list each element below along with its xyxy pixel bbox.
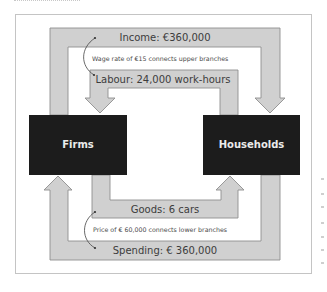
- spending-label: Spending: € 360,000: [113, 245, 217, 256]
- edge-fragment: [321, 206, 324, 208]
- income-label: Income: €360,000: [119, 32, 210, 43]
- edge-fragment: [321, 249, 324, 251]
- edge-fragment: [321, 178, 324, 180]
- upper-connector-dot-bottom: [93, 74, 95, 76]
- firms-label: Firms: [62, 139, 94, 150]
- lower-connector-dot-bottom: [94, 247, 96, 249]
- edge-fragment: [321, 193, 324, 195]
- labour-label: Labour: 24,000 work-hours: [95, 74, 230, 85]
- edge-fragment: [321, 236, 324, 238]
- price-note: Price of € 60,000 connects lower branche…: [93, 226, 227, 233]
- goods-label: Goods: 6 cars: [131, 204, 200, 215]
- upper-connector-dot-top: [94, 37, 96, 39]
- households-label: Households: [219, 139, 285, 150]
- edge-fragment: [321, 222, 324, 224]
- circular-flow-diagram: Firms Households Income: €360,000 Labour…: [0, 0, 327, 292]
- edge-fragment: [321, 262, 324, 264]
- wage-rate-note: Wage rate of €15 connects upper branches: [92, 55, 228, 63]
- lower-connector-dot-top: [94, 211, 96, 213]
